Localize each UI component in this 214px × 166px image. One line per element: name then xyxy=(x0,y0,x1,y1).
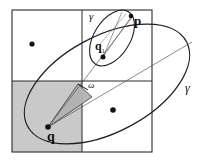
label-gamma-outer: γ xyxy=(185,82,190,94)
label-point-p: p xyxy=(134,14,141,27)
dot-top-left-cell xyxy=(29,41,34,46)
label-point-q1: q1 xyxy=(95,40,105,54)
geometry-figure: γ p q1 ω q γ xyxy=(0,0,214,166)
figure-canvas xyxy=(0,0,214,166)
inner-chord-q1-to-p xyxy=(103,17,131,57)
label-point-q: q xyxy=(47,130,55,144)
label-gamma-inner: γ xyxy=(89,11,93,22)
label-angle-omega: ω xyxy=(88,81,94,90)
point-q1-marker xyxy=(101,55,106,60)
label-point-q1-base: q xyxy=(95,39,102,53)
dot-bottom-right-cell xyxy=(110,107,116,113)
label-point-q1-subscript: 1 xyxy=(102,48,105,54)
point-p-marker xyxy=(129,14,134,19)
